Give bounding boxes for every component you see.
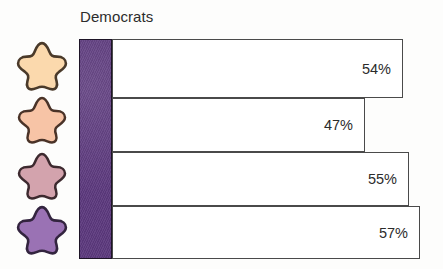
bar-row: 54% — [112, 39, 403, 98]
star-icon — [17, 151, 67, 201]
chart-figure: Democrats 54% 47% — [0, 0, 443, 269]
bar-row: 47% — [112, 98, 365, 152]
star-icon — [17, 95, 67, 145]
legend-item-2 — [10, 93, 74, 147]
bar-row: 55% — [112, 152, 409, 206]
bar-value-label: 47% — [324, 117, 364, 133]
bar-value-label: 55% — [368, 171, 408, 187]
star-legend — [10, 39, 74, 258]
chart-title: Democrats — [80, 8, 153, 25]
legend-item-1 — [10, 39, 74, 93]
star-icon — [16, 40, 68, 92]
bar-row: 57% — [112, 206, 420, 259]
legend-item-3 — [10, 149, 74, 203]
plot-area: 54% 47% 55% 57% — [79, 39, 424, 259]
axis-band — [79, 39, 112, 259]
bar-value-label: 54% — [362, 61, 402, 77]
star-icon — [16, 204, 68, 256]
bar-value-label: 57% — [379, 225, 419, 241]
legend-item-4 — [10, 203, 74, 257]
